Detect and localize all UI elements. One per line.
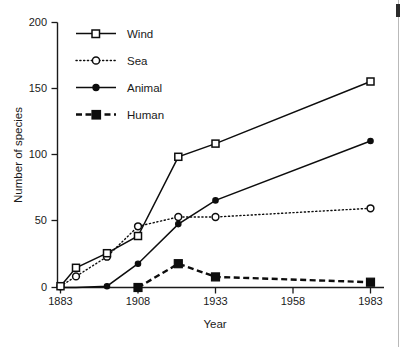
y-tick-label-100: 100 [29, 148, 47, 160]
legend-label-sea: Sea [127, 55, 148, 67]
series-human-markers [134, 260, 375, 292]
x-tick-label-1883: 1883 [48, 295, 72, 307]
data-point [135, 233, 142, 240]
series-human-line [138, 264, 371, 288]
x-axis-title: Year [203, 318, 226, 330]
y-tick-label-50: 50 [35, 214, 47, 226]
data-point [213, 198, 218, 203]
legend-entry-sea[interactable]: Sea [76, 55, 148, 67]
legend-label-animal: Animal [127, 82, 162, 94]
data-point [212, 214, 219, 221]
data-point [134, 284, 142, 292]
data-point [176, 221, 181, 226]
data-point [367, 205, 374, 212]
data-point [175, 153, 182, 160]
legend-label-wind: Wind [127, 28, 153, 40]
x-tick-label-1983: 1983 [358, 295, 382, 307]
x-tick-label-1908: 1908 [126, 295, 150, 307]
x-tick-label-1933: 1933 [203, 295, 227, 307]
filled-square-dashed-line-icon [92, 111, 101, 120]
data-point [212, 273, 220, 281]
y-axis-ticks [52, 23, 58, 288]
page-edge-mark [396, 4, 400, 17]
data-point [57, 283, 64, 290]
x-tick-label-1958: 1958 [281, 295, 305, 307]
data-point [367, 78, 374, 85]
data-point [212, 140, 219, 147]
y-tick-label-200: 200 [29, 16, 47, 28]
open-square-solid-line-icon [92, 30, 100, 38]
legend-entry-wind[interactable]: Wind [76, 28, 153, 40]
legend-entry-animal[interactable]: Animal [76, 82, 162, 94]
data-point [135, 261, 140, 266]
axes-group: 200 150 100 50 0 1883 1908 1933 1958 198… [12, 16, 384, 330]
data-point [135, 223, 142, 230]
page-edge-line [398, 0, 399, 347]
data-point [104, 284, 109, 289]
series-human [138, 264, 371, 288]
data-point [174, 260, 182, 268]
y-tick-label-0: 0 [41, 281, 47, 293]
chart-figure: 200 150 100 50 0 1883 1908 1933 1958 198… [0, 0, 408, 347]
legend-label-human: Human [127, 109, 164, 121]
legend-entry-human[interactable]: Human [76, 109, 164, 121]
y-axis-title: Number of species [12, 107, 24, 203]
data-point [73, 264, 80, 271]
series-group [57, 78, 375, 292]
series-animal-markers [104, 138, 373, 289]
chart-legend: Wind Sea Animal Human [76, 28, 164, 121]
data-point [367, 278, 375, 286]
line-chart-plot: 200 150 100 50 0 1883 1908 1933 1958 198… [0, 0, 408, 347]
filled-circle-solid-line-icon [93, 84, 99, 90]
y-tick-label-150: 150 [29, 82, 47, 94]
data-point [368, 138, 373, 143]
open-circle-dotted-line-icon [92, 57, 99, 64]
data-point [175, 214, 182, 221]
data-point [73, 273, 80, 280]
data-point [104, 250, 111, 257]
